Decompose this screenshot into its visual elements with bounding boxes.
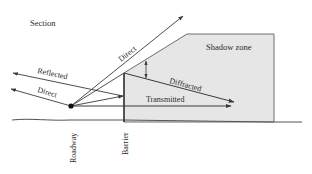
source-point — [68, 103, 73, 108]
roadway-label: Roadway — [69, 133, 78, 163]
transmitted-label: Transmitted — [146, 95, 184, 104]
shadow-zone-label: Shadow zone — [206, 42, 252, 52]
reflected-ray — [13, 73, 123, 96]
barrier-label: Barrier — [121, 132, 130, 155]
noise-barrier-diagram: Section Shadow zone Direct Reflected Dir… — [0, 0, 312, 174]
section-label: Section — [30, 18, 56, 28]
diagram-svg: Section Shadow zone Direct Reflected Dir… — [0, 0, 312, 174]
